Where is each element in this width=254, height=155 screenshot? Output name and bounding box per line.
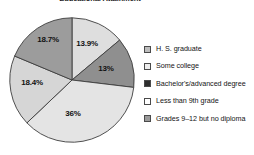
legend-item-label: Bachelor's/advanced degree [156,80,246,88]
legend-item[interactable]: Bachelor's/advanced degree [144,77,254,91]
legend-item-label: Grades 9–12 but no diploma [156,115,245,123]
chart-title: Educational Attainment [30,0,170,3]
legend-item[interactable]: Some college [144,59,254,73]
legend-swatch-icon [144,98,151,105]
legend-swatch-icon [144,80,151,87]
pie-slice-label: 36% [65,109,80,118]
legend-item-label: H. S. graduate [156,45,202,53]
legend-item-label: Some college [156,62,199,70]
pie-slice-label: 13.9% [76,39,98,48]
legend-swatch-icon [144,63,151,70]
chart-legend: H. S. graduateSome collegeBachelor's/adv… [144,42,254,129]
legend-item-label: Less than 9th grade [156,97,219,105]
legend-swatch-icon [144,46,151,53]
pie-slice-label: 13% [98,64,113,73]
pie-chart-plot-area: 13.9%13%36%18.4%18.7% [9,17,135,143]
pie-slice-label: 18.7% [37,35,59,44]
legend-item[interactable]: Less than 9th grade [144,94,254,108]
legend-swatch-icon [144,115,151,122]
legend-item[interactable]: H. S. graduate [144,42,254,56]
legend-item[interactable]: Grades 9–12 but no diploma [144,112,254,126]
pie-slice-label: 18.4% [21,78,43,87]
pie-chart-figure: Educational Attainment 13.9%13%36%18.4%1… [0,0,254,155]
